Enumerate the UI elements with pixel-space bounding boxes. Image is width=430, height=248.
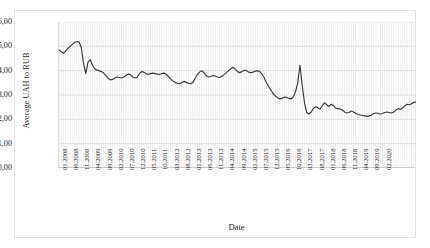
x-tick-label: 03.2017 <box>306 149 313 170</box>
x-tick-label: 08.2017 <box>318 149 325 170</box>
x-tick-label: 02.2020 <box>385 149 392 170</box>
x-tick-label: 06.2008 <box>72 149 79 170</box>
y-tick-label: 5,00 <box>0 42 12 50</box>
x-tick-label: 05.2016 <box>284 149 291 170</box>
y-tick-label: 0,00 <box>0 164 12 172</box>
x-tick-label: 11.2008 <box>83 149 90 170</box>
y-axis-title: Average UAH to RUB <box>22 21 31 161</box>
x-tick-label: 04.2019 <box>362 149 369 170</box>
x-tick-label: 09.2014 <box>240 149 247 170</box>
x-tick-label: 01.2013 <box>195 149 202 170</box>
x-tick-label: 01.2008 <box>61 149 68 170</box>
x-tick-label: 05.2011 <box>150 149 157 170</box>
y-tick-label: 1,00 <box>0 140 12 148</box>
x-tick-label: 10.2016 <box>295 149 302 170</box>
x-tick-label: 04.2014 <box>228 149 235 170</box>
x-tick-label: 02.2010 <box>117 149 124 170</box>
x-tick-label: 04.2009 <box>94 149 101 170</box>
y-tick-label: 3,00 <box>0 91 12 99</box>
x-tick-label: 07.2010 <box>128 149 135 170</box>
x-tick-label: 09.2009 <box>106 149 113 170</box>
x-tick-label: 02.2015 <box>251 149 258 170</box>
x-tick-label: 10.2011 <box>161 149 168 170</box>
x-tick-label: 11.2013 <box>217 149 224 170</box>
x-axis-title: Date <box>58 222 415 232</box>
x-tick-label: 08.2012 <box>184 149 191 170</box>
y-tick-label: 4,00 <box>0 67 12 75</box>
x-tick-label: 03.2012 <box>173 149 180 170</box>
y-tick-label: 2,00 <box>0 115 12 123</box>
y-tick-label: 6,00 <box>0 18 12 26</box>
x-tick-label: 12.2015 <box>273 149 280 170</box>
x-tick-label: 01.2018 <box>329 149 336 170</box>
x-tick-label: 12.2010 <box>139 149 146 170</box>
x-tick-label: 06.2013 <box>206 149 213 170</box>
plot-area <box>58 22 415 168</box>
x-tick-label: 11.2018 <box>351 149 358 170</box>
x-tick-label: 07.2015 <box>262 149 269 170</box>
x-tick-label: 09.2019 <box>373 149 380 170</box>
line-chart-svg <box>59 22 416 168</box>
chart-figure: Average UAH to RUB 6,005,004,003,002,001… <box>0 0 430 248</box>
x-tick-label: 06.2018 <box>340 149 347 170</box>
